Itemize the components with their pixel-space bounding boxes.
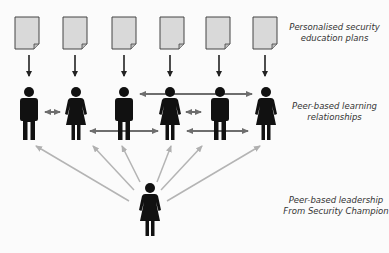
document-icon [206,17,230,49]
document-icon [112,17,136,49]
document-icon [253,17,277,49]
male-person-icon [20,87,38,140]
female-person-icon [255,87,277,140]
label-champion-leadership: Peer-based leadership From Security Cham… [280,195,389,217]
label-line: Peer-based leadership [280,195,389,206]
document-icon [63,17,87,49]
document-icon [160,17,184,49]
plan-arrows [29,55,265,76]
female-person-icon [65,87,87,140]
label-line: education plans [282,33,387,44]
leadership-arrows [36,146,260,201]
label-learning-relationships: Peer-based learning relationships [282,101,387,123]
arrow-icon [157,146,171,182]
label-line: Peer-based learning [282,101,387,112]
label-line: From Security Champion [280,206,389,217]
label-education-plans: Personalised security education plans [282,22,387,44]
security-champion-icon [139,183,161,236]
documents-row [15,17,277,49]
arrow-icon [122,146,140,182]
label-line: relationships [282,112,387,123]
arrow-icon [36,146,129,201]
label-line: Personalised security [282,22,387,33]
male-person-icon [115,87,133,140]
arrow-icon [167,146,260,201]
document-icon [15,17,39,49]
